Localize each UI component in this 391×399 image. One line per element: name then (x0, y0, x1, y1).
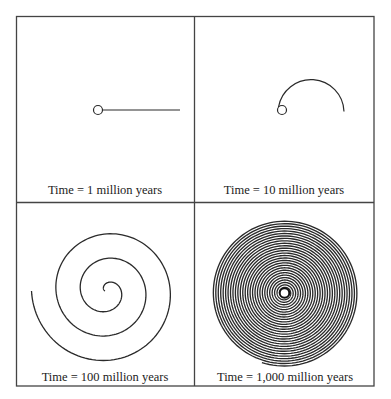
origin-circle (94, 106, 103, 115)
panel-10-million-years: Time = 10 million years (224, 80, 345, 197)
panel-4-label: Time = 1,000 million years (217, 370, 353, 384)
spiral-figure: Time = 1 million years Time = 10 million… (0, 0, 391, 399)
origin-circle (280, 288, 290, 298)
figure-frame (17, 17, 375, 387)
panel-1-label: Time = 1 million years (48, 183, 162, 197)
panel-3-label: Time = 100 million years (42, 370, 169, 384)
panel-1-million-years: Time = 1 million years (48, 106, 180, 198)
panel-100-million-years: Time = 100 million years (32, 234, 171, 384)
track-spiral (32, 234, 171, 361)
panel-1000-million-years: Time = 1,000 million years (213, 221, 357, 384)
track-arc (279, 80, 345, 112)
panel-2-label: Time = 10 million years (224, 183, 345, 197)
